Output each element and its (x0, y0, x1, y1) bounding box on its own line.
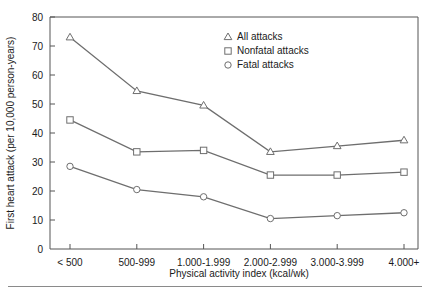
footer-divider (8, 286, 422, 287)
x-tick-label: 3.000-3.999 (311, 257, 365, 268)
data-point (334, 172, 340, 178)
legend-label: Nonfatal attacks (237, 45, 309, 56)
data-point (200, 194, 206, 200)
data-point (67, 117, 73, 123)
data-point (401, 169, 407, 175)
data-point (200, 147, 206, 153)
data-point (401, 210, 407, 216)
y-tick-label: 40 (32, 128, 44, 139)
legend-marker (224, 33, 232, 40)
y-tick-label: 10 (32, 215, 44, 226)
data-point (267, 215, 273, 221)
y-tick-label: 50 (32, 99, 44, 110)
y-axis-ticks: 01020304050607080 (32, 12, 55, 255)
y-tick-label: 30 (32, 157, 44, 168)
chart-legend: All attacksNonfatal attacksFatal attacks (224, 31, 309, 70)
y-tick-label: 60 (32, 70, 44, 81)
legend-label: All attacks (237, 31, 283, 42)
data-point (267, 172, 273, 178)
series-square (67, 117, 407, 179)
data-point (67, 163, 73, 169)
chart-figure: 01020304050607080 < 500500-9991.000-1.99… (0, 0, 431, 305)
x-tick-label: 500-999 (118, 257, 155, 268)
legend-marker (225, 48, 231, 54)
x-tick-label: 1.000-1.999 (177, 257, 231, 268)
legend-marker (225, 62, 231, 68)
y-axis-title: First heart attack (per 10,000 person-ye… (5, 37, 16, 230)
y-tick-label: 20 (32, 186, 44, 197)
x-tick-label: 2.000-2.999 (244, 257, 298, 268)
data-point (334, 212, 340, 218)
y-tick-label: 0 (37, 244, 43, 255)
x-tick-label: < 500 (57, 257, 83, 268)
data-point (134, 186, 140, 192)
line-chart: 01020304050607080 < 500500-9991.000-1.99… (0, 0, 431, 305)
data-point (133, 87, 141, 94)
x-tick-label: 4.000+ (389, 257, 420, 268)
legend-label: Fatal attacks (237, 59, 294, 70)
data-point (400, 136, 408, 143)
x-axis-title: Physical activity index (kcal/wk) (169, 268, 308, 279)
series-circle (67, 163, 407, 222)
x-axis-ticks: < 500500-9991.000-1.9992.000-2.9993.000-… (57, 244, 419, 268)
data-point (134, 149, 140, 155)
y-tick-label: 80 (32, 12, 44, 23)
data-point (66, 33, 74, 40)
y-tick-label: 70 (32, 41, 44, 52)
